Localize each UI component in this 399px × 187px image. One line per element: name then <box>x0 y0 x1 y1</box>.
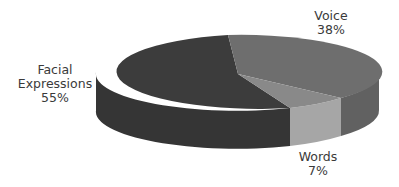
label-facial-name: Facial <box>18 63 92 77</box>
label-words: Words 7% <box>299 150 338 178</box>
label-words-name: Words <box>299 150 338 164</box>
label-voice: Voice 38% <box>314 9 347 37</box>
pie-chart: Facial Expressions 55% Voice 38% Words 7… <box>0 0 399 187</box>
label-words-pct: 7% <box>299 164 338 178</box>
label-facial-pct: 55% <box>18 91 92 105</box>
label-facial-name2: Expressions <box>18 77 92 91</box>
label-voice-pct: 38% <box>314 23 347 37</box>
label-facial-expressions: Facial Expressions 55% <box>18 63 92 105</box>
label-voice-name: Voice <box>314 9 347 23</box>
